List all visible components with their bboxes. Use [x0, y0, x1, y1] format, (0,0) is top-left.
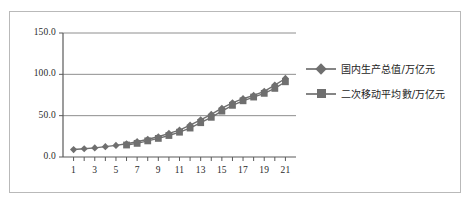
diamond-marker-icon	[306, 63, 336, 75]
x-axis-tick-label: 7	[127, 165, 147, 175]
legend-item-moving-average: 二次移动平均數/万亿元	[306, 81, 462, 106]
x-axis-tick-label: 13	[191, 165, 211, 175]
x-axis-tick-label: 17	[233, 165, 253, 175]
x-axis-tick-label: 19	[254, 165, 274, 175]
x-axis-tick-label: 5	[106, 165, 126, 175]
x-axis-tick-label: 21	[275, 165, 295, 175]
x-axis-tick-label: 15	[212, 165, 232, 175]
y-axis-tick-label: 0.0	[10, 151, 56, 161]
legend-item-label: 二次移动平均數/万亿元	[341, 86, 445, 101]
series-lines	[74, 78, 286, 149]
x-axis-tick-label: 3	[85, 165, 105, 175]
gridlines	[63, 33, 296, 116]
series-markers	[70, 75, 289, 153]
y-axis-tick-label: 100.0	[10, 68, 56, 78]
x-axis-ticks	[74, 157, 286, 161]
legend-item-gdp: 国内生产总值/万亿元	[306, 56, 462, 81]
square-marker-icon	[306, 88, 336, 100]
chart-figure: 0.050.0100.0150.0 13579111315171921 国内生产…	[9, 11, 461, 193]
x-axis-tick-label: 1	[64, 165, 84, 175]
y-axis-tick-label: 150.0	[10, 27, 56, 37]
chart-legend: 国内生产总值/万亿元 二次移动平均數/万亿元	[306, 56, 462, 106]
x-axis-tick-label: 9	[148, 165, 168, 175]
y-axis-tick-label: 50.0	[10, 110, 56, 120]
legend-item-label: 国内生产总值/万亿元	[341, 61, 435, 76]
x-axis-tick-label: 11	[170, 165, 190, 175]
